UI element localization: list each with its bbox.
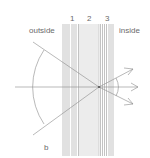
layer-3-label: 3 bbox=[105, 14, 110, 23]
layer-1-label: 1 bbox=[70, 14, 75, 23]
layer-1-lines bbox=[63, 24, 79, 156]
intersection-point bbox=[98, 86, 100, 88]
outside-label: outside bbox=[29, 26, 55, 35]
angle-b-label: b bbox=[44, 143, 49, 152]
refraction-diagram: 1 2 3 outside inside b bbox=[0, 0, 150, 158]
layer-2-band bbox=[79, 24, 99, 156]
layer-3-lines bbox=[101, 24, 114, 156]
layer-2-label: 2 bbox=[87, 14, 92, 23]
inside-label: inside bbox=[119, 26, 140, 35]
